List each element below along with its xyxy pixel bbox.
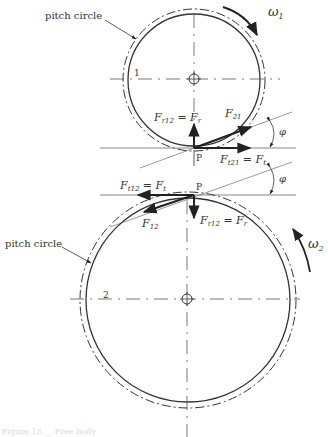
- angle-phi-arc-top: [270, 121, 274, 147]
- force-F12-arrow: [144, 195, 194, 212]
- phi-label-top: φ: [279, 126, 286, 137]
- omega-1-label: ω1: [268, 4, 284, 21]
- gear-1-number-label: 1: [134, 68, 140, 78]
- pitch-circle-leader-bottom: [62, 247, 91, 263]
- figure-caption: Figure 13.__ Free body: [2, 427, 96, 436]
- angle-phi-arc-bottom: [270, 167, 274, 194]
- Ft12-label: Ft12 = Ft: [119, 179, 166, 193]
- gear-2: [70, 192, 300, 437]
- F21-label: F21: [224, 107, 242, 121]
- Fr12-bottom-label: Fr12 = Fr: [199, 214, 248, 228]
- Fr12-top-label: Fr12 = Fr: [153, 111, 202, 125]
- Ft21-label: Ft21 = Ft: [219, 153, 266, 167]
- F12-label: F12: [141, 217, 159, 231]
- gear-2-number-label: 2: [103, 290, 109, 300]
- omega-1-rotation-arrow: [223, 7, 257, 35]
- pitch-point-label-top: P: [196, 153, 202, 163]
- pitch-circle-label-top: pitch circle: [45, 10, 102, 21]
- pitch-circle-label-bottom: pitch circle: [5, 238, 62, 249]
- pitch-circle-leader-top: [105, 20, 136, 39]
- pitch-point-label-bottom: P: [196, 182, 202, 192]
- phi-label-bottom: φ: [279, 173, 286, 184]
- omega-2-label: ω2: [308, 236, 324, 253]
- gear-force-diagram: pitch circle pitch circle 1 2 ω1 ω2 P P …: [0, 0, 328, 437]
